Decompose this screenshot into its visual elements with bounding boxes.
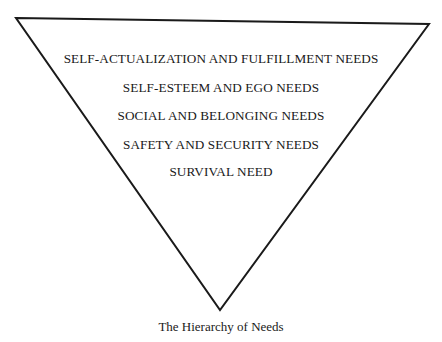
level-survival: SURVIVAL NEED [0,164,442,180]
level-safety-security: SAFETY AND SECURITY NEEDS [0,137,442,153]
level-self-esteem: SELF-ESTEEM AND EGO NEEDS [0,80,442,96]
level-self-actualization: SELF-ACTUALIZATION AND FULFILLMENT NEEDS [0,51,442,67]
diagram-caption: The Hierarchy of Needs [0,319,442,335]
level-social-belonging: SOCIAL AND BELONGING NEEDS [0,108,442,124]
